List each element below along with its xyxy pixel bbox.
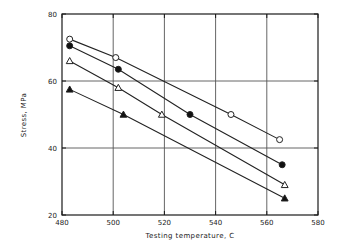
x-tick-label: 500 [107,219,120,227]
x-tick-label: 480 [55,219,68,227]
y-axis-title: Stress, MPa [20,93,28,138]
marker-open-circle [113,55,119,61]
x-tick-label: 520 [158,219,171,227]
chart-figure: 480500520540560580 20406080 Testing temp… [0,0,339,247]
marker-open-circle [67,36,73,42]
marker-filled-circle [115,66,121,72]
x-axis-title: Testing temperature, C [145,232,235,240]
marker-open-circle [228,112,234,118]
marker-filled-circle [67,43,73,49]
y-tick-label: 80 [48,11,57,19]
x-tick-label: 560 [260,219,273,227]
marker-open-circle [277,137,283,143]
figure-background [0,0,339,247]
marker-filled-circle [187,112,193,118]
marker-filled-circle [279,162,285,168]
stress-vs-temperature-chart: 480500520540560580 20406080 Testing temp… [0,0,339,247]
x-tick-label: 580 [311,219,324,227]
y-tick-label: 40 [48,145,57,153]
y-tick-label: 60 [48,78,57,86]
y-tick-label: 20 [48,212,57,220]
x-tick-label: 540 [209,219,222,227]
